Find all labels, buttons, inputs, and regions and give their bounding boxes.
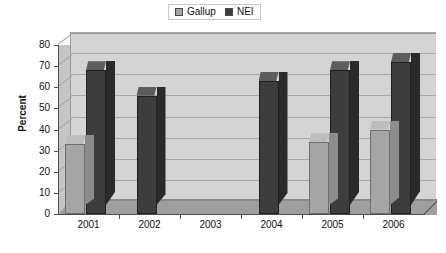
x-axis-tick-label: 2005 [303,219,363,231]
bar-top-face [391,53,411,62]
bar-top-face [65,135,85,144]
bar-nei-2002[interactable] [137,96,157,214]
bar-side-face [279,72,288,205]
x-axis-tick-label: 2006 [364,219,424,231]
bar-front-face [65,144,85,214]
bar-gallup-2005[interactable] [309,142,329,214]
bar-side-face [106,61,115,205]
bar-side-face [390,121,399,206]
bar-side-face [411,53,420,205]
bar-front-face [137,96,157,214]
bar-side-face [350,61,359,205]
bar-top-face [259,72,279,81]
bar-chart: Gallup NEI 01020304050607080 Percent 200… [0,0,446,253]
bar-top-face [137,87,157,96]
x-axis-tick-label: 2002 [120,219,180,231]
bar-front-face [309,142,329,214]
plot-area: 01020304050607080 Percent 20012002200320… [0,0,446,253]
bar-side-face [157,87,166,205]
bar-top-face [370,121,390,130]
bar-top-face [86,61,106,70]
bar-series-group [0,0,446,253]
bar-front-face [259,81,279,214]
bar-front-face [370,130,390,215]
bar-top-face [330,61,350,70]
bar-gallup-2001[interactable] [65,144,85,214]
bar-gallup-2006[interactable] [370,130,390,215]
x-axis-tick-label: 2004 [242,219,302,231]
bar-top-face [309,133,329,142]
bar-side-face [85,135,94,205]
x-axis-tick-label: 2001 [59,219,119,231]
x-axis-tick-label: 2003 [181,219,241,231]
bar-side-face [329,133,338,205]
x-axis-tick-labels: 200120022003200420052006 [58,219,425,235]
bar-nei-2004[interactable] [259,81,279,214]
